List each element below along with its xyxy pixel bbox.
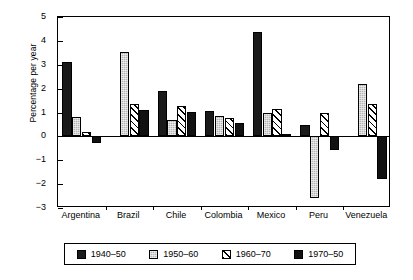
bar: [310, 136, 319, 198]
legend-label: 1950–60: [163, 249, 198, 259]
legend-swatch-icon: [149, 250, 158, 259]
legend-label: 1970–50: [308, 249, 343, 259]
bar: [358, 84, 367, 136]
legend-label: 1960–70: [236, 249, 271, 259]
bar: [158, 91, 167, 136]
bar: [139, 110, 148, 136]
chart-figure: Percentage per year 543210−1−2−3 Argenti…: [0, 0, 413, 280]
legend-item: 1950–60: [138, 249, 211, 259]
bar: [330, 136, 339, 149]
legend-item: 1940–50: [65, 249, 138, 259]
legend-swatch-icon: [294, 250, 303, 259]
x-axis-label-peru: Peru: [295, 210, 343, 220]
bar: [377, 136, 386, 179]
chart-legend: 1940–501950–601960–701970–50: [64, 243, 356, 265]
y-tick-label: 5: [16, 11, 46, 22]
plot-area: 543210−1−2−3: [57, 16, 390, 207]
bar: [215, 116, 224, 137]
bar: [130, 104, 139, 137]
legend-label: 1940–50: [91, 249, 126, 259]
bar: [272, 109, 281, 137]
zero-baseline: [58, 136, 389, 137]
x-axis-label-venezuela: Venezuela: [342, 210, 390, 220]
bar: [253, 32, 262, 136]
legend-item: 1970–50: [283, 249, 356, 259]
bar: [177, 106, 186, 137]
x-axis-label-mexico: Mexico: [247, 210, 295, 220]
y-tick-label: 0: [16, 130, 46, 141]
y-tick-mark: [58, 17, 63, 18]
bar: [92, 136, 101, 143]
bar: [120, 52, 129, 137]
y-tick-label: 3: [16, 59, 46, 70]
bar: [263, 113, 272, 137]
legend-swatch-icon: [77, 250, 86, 259]
x-axis-label-colombia: Colombia: [200, 210, 248, 220]
y-tick-mark: [58, 41, 63, 42]
y-tick-label: 1: [16, 107, 46, 118]
y-tick-label: −2: [16, 178, 46, 189]
y-tick-label: 2: [16, 83, 46, 94]
bar: [300, 125, 309, 136]
x-axis-label-argentina: Argentina: [57, 210, 105, 220]
x-axis-label-chile: Chile: [152, 210, 200, 220]
y-tick-mark: [58, 184, 63, 185]
bar: [167, 120, 176, 137]
bar: [72, 117, 81, 136]
y-tick-mark: [58, 160, 63, 161]
bar: [205, 111, 214, 137]
bar: [187, 112, 196, 136]
legend-item: 1960–70: [210, 249, 283, 259]
bar: [235, 123, 244, 137]
x-axis-label-brazil: Brazil: [105, 210, 153, 220]
y-tick-label: −3: [16, 202, 46, 213]
bar: [225, 118, 234, 136]
bar: [62, 62, 71, 136]
y-tick-label: 4: [16, 35, 46, 46]
bar: [320, 113, 329, 137]
legend-swatch-icon: [222, 250, 231, 259]
bar: [368, 104, 377, 137]
y-tick-mark: [58, 208, 63, 209]
y-tick-label: −1: [16, 154, 46, 165]
